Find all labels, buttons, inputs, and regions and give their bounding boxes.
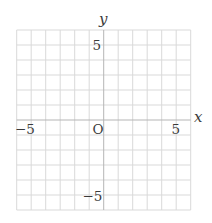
x-tick-label-pos5: 5 <box>172 121 181 137</box>
y-tick-label-neg5: −5 <box>83 188 103 204</box>
y-axis-label: y <box>98 10 108 28</box>
x-axis-label: x <box>194 108 203 126</box>
y-tick-label-pos5: 5 <box>93 37 102 53</box>
origin-label: O <box>93 121 104 137</box>
coordinate-plane: y x O −5 5 5 −5 <box>0 0 212 223</box>
axes <box>17 30 191 210</box>
x-tick-label-neg5: −5 <box>15 121 35 137</box>
